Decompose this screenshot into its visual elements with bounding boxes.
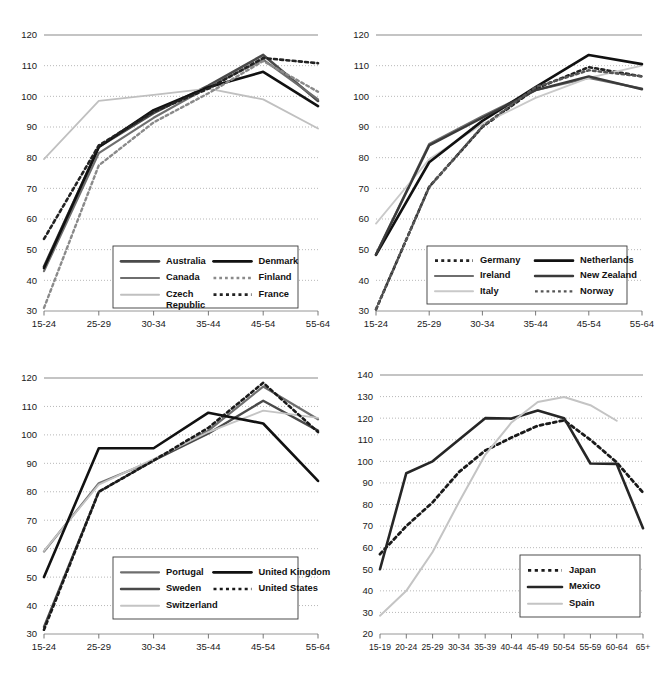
x-axis-tick-label: 20-24 [395,642,417,652]
series-line-france [44,58,318,239]
y-axis-tick-label: 100 [353,91,369,102]
y-axis-tick-label: 120 [357,413,373,424]
legend-label-france: France [259,289,290,299]
series-line-japan [380,420,643,554]
y-axis-tick-label: 80 [26,486,37,497]
y-axis-tick-label: 60 [26,213,37,224]
y-axis-tick-label: 50 [26,244,37,255]
x-axis-tick-label: 25-29 [422,642,444,652]
series-line-mexico [380,411,643,570]
x-axis-tick-label: 15-19 [369,642,391,652]
panel-top-right: 3040506070809010011012015-2425-2930-3435… [340,0,663,343]
x-axis-tick-label: 45-54 [251,318,275,329]
y-axis-tick-label: 30 [26,305,37,316]
multi-panel-line-chart-figure: 3040506070809010011012015-2425-2930-3435… [0,0,663,683]
series-line-italy [376,66,642,224]
x-axis-tick-label: 15-24 [32,318,56,329]
series-line-new-zealand [376,76,642,254]
legend-label-netherlands: Netherlands [580,255,634,265]
panel-bottom-left: 3040506070809010011012015-2425-2930-3435… [0,343,340,683]
legend-label-finland: Finland [259,272,292,282]
y-axis-tick-label: 40 [358,275,369,286]
y-axis-tick-label: 110 [22,60,37,71]
x-axis-tick-label: 65+ [636,642,651,652]
panel-top-right-plot: 3040506070809010011012015-2425-2930-3435… [340,0,663,343]
y-axis-tick-label: 60 [362,542,373,553]
x-axis-tick-label: 45-54 [251,641,275,652]
y-axis-tick-label: 60 [26,543,37,554]
x-axis-tick-label: 30-34 [141,318,165,329]
y-axis-tick-label: 90 [26,121,37,132]
x-axis-tick-label: 40-44 [501,642,523,652]
legend-label-japan: Japan [569,565,596,575]
y-axis-tick-label: 20 [362,628,373,639]
y-axis-tick-label: 100 [21,91,37,102]
legend-label-ireland: Ireland [480,270,511,280]
y-axis-tick-label: 30 [358,305,369,316]
x-axis-tick-label: 45-49 [527,642,549,652]
y-axis-tick-label: 120 [21,29,37,40]
y-axis-tick-label: 90 [26,458,37,469]
y-axis-tick-label: 60 [358,213,369,224]
x-axis-tick-label: 15-24 [32,641,56,652]
x-axis-tick-label: 50-54 [553,642,575,652]
y-axis-tick-label: 70 [358,183,369,194]
y-axis-tick-label: 70 [26,183,37,194]
x-axis-tick-label: 30-34 [470,318,494,329]
y-axis-tick-label: 110 [22,401,37,412]
y-axis-tick-label: 100 [357,456,373,467]
x-axis-tick-label: 35-44 [523,318,547,329]
legend-label-denmark: Denmark [259,256,300,266]
y-axis-tick-label: 90 [358,121,369,132]
y-axis-tick-label: 30 [26,628,37,639]
y-axis-tick-label: 50 [358,244,369,255]
y-axis-tick-label: 70 [362,520,373,531]
legend-label-new-zealand: New Zealand [580,270,637,280]
panel-top-left: 3040506070809010011012015-2425-2930-3435… [0,0,340,343]
y-axis-tick-label: 40 [362,585,373,596]
panel-bottom-right-plot: 203040506070809010011012013014015-1920-2… [340,343,663,683]
legend-label-united-states: United States [259,583,318,593]
y-axis-tick-label: 70 [26,515,37,526]
y-axis-tick-label: 50 [26,572,37,583]
y-axis-tick-label: 100 [21,429,37,440]
legend-label-sweden: Sweden [166,583,201,593]
x-axis-tick-label: 25-29 [87,318,111,329]
panel-bottom-right: 203040506070809010011012013014015-1920-2… [340,343,663,683]
x-axis-tick-label: 35-39 [474,642,496,652]
legend-label-mexico: Mexico [569,581,601,591]
x-axis-tick-label: 45-54 [577,318,601,329]
x-axis-tick-label: 55-64 [306,318,330,329]
x-axis-tick-label: 55-59 [579,642,601,652]
legend-label-spain: Spain [569,598,595,608]
legend-label-australia: Australia [166,256,207,266]
y-axis-tick-label: 40 [26,275,37,286]
y-axis-tick-label: 130 [357,391,373,402]
x-axis-tick-label: 30-34 [448,642,470,652]
legend-label-switzerland: Switzerland [166,600,218,610]
y-axis-tick-label: 140 [357,369,373,380]
y-axis-tick-label: 40 [26,600,37,611]
legend-label-canada: Canada [166,272,200,282]
y-axis-tick-label: 110 [358,434,373,445]
legend-label-norway: Norway [580,286,614,296]
legend-label-germany: Germany [480,255,521,265]
y-axis-tick-label: 30 [362,607,373,618]
series-line-australia [44,55,318,267]
y-axis-tick-label: 50 [362,564,373,575]
x-axis-tick-label: 30-34 [141,641,165,652]
y-axis-tick-label: 80 [362,499,373,510]
x-axis-tick-label: 35-44 [196,641,220,652]
y-axis-tick-label: 120 [21,372,37,383]
x-axis-tick-label: 55-64 [306,641,330,652]
x-axis-tick-label: 35-44 [196,318,220,329]
legend-label-portugal: Portugal [166,567,204,577]
series-line-netherlands [376,55,642,255]
x-axis-tick-label: 55-64 [630,318,654,329]
y-axis-tick-label: 80 [26,152,37,163]
y-axis-tick-label: 90 [362,477,373,488]
legend-label-united-kingdom: United Kingdom [259,567,331,577]
series-line-united-kingdom [44,413,318,577]
x-axis-tick-label: 25-29 [417,318,441,329]
x-axis-tick-label: 25-29 [87,641,111,652]
